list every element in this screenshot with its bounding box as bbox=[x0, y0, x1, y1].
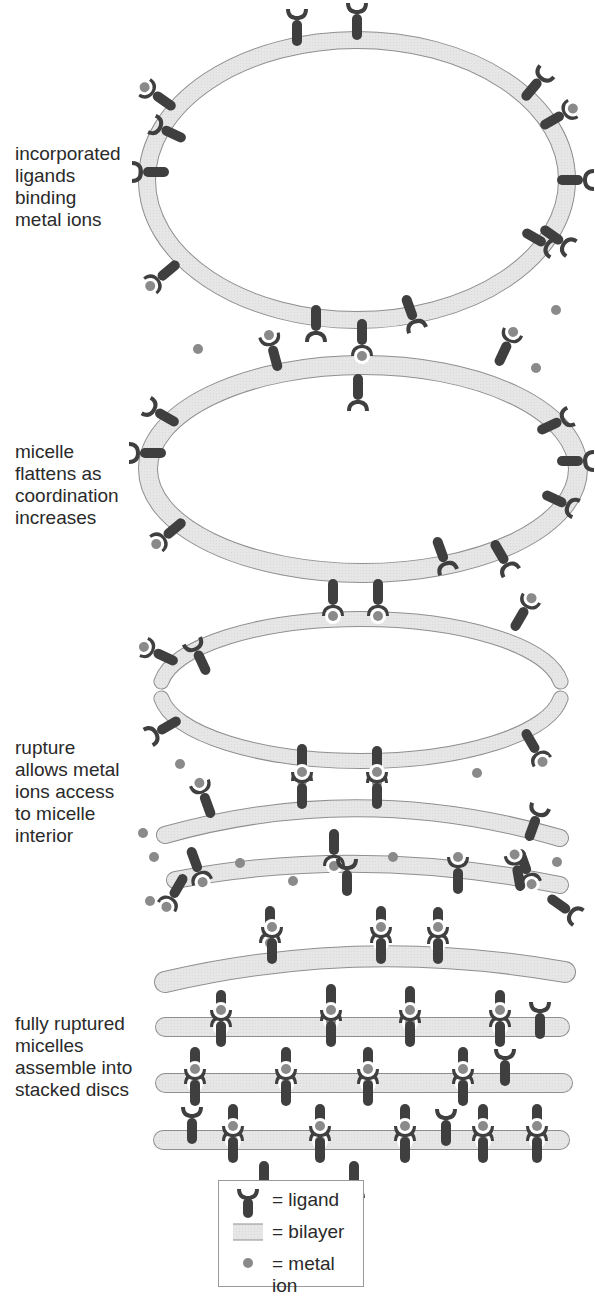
metal-ion bbox=[193, 344, 203, 354]
metal-ion bbox=[400, 1121, 410, 1131]
metal-ion bbox=[453, 852, 463, 862]
metal-ion bbox=[267, 922, 277, 932]
metal-ion bbox=[405, 1005, 415, 1015]
bilayer-layer bbox=[147, 40, 578, 1140]
ligand-bound bbox=[322, 579, 344, 624]
metal-ion-icon bbox=[233, 1251, 263, 1275]
metal-ion bbox=[376, 922, 386, 932]
metal-ion bbox=[281, 1064, 291, 1074]
metal-ion bbox=[235, 858, 245, 868]
legend-item-metal-ion: = metal ion bbox=[219, 1251, 363, 1279]
micelle-1-bilayer bbox=[147, 40, 567, 320]
metal-ion bbox=[388, 852, 398, 862]
legend-metal-ion-label: = metal ion bbox=[272, 1253, 363, 1297]
metal-ion bbox=[326, 1005, 336, 1015]
metal-ion bbox=[532, 1121, 542, 1131]
ligand bbox=[542, 888, 585, 927]
legend: = ligand = bilayer = metal ion bbox=[218, 1180, 364, 1287]
metal-ion bbox=[288, 876, 298, 886]
metal-ion bbox=[373, 611, 383, 621]
micelle-2-bilayer bbox=[148, 365, 578, 573]
legend-ligand-label: = ligand bbox=[272, 1189, 339, 1211]
legend-bilayer-label: = bilayer bbox=[272, 1221, 344, 1243]
metal-ion bbox=[363, 1064, 373, 1074]
bilayer-icon bbox=[233, 1222, 263, 1242]
metal-ion bbox=[149, 852, 159, 862]
metal-ion bbox=[495, 1005, 505, 1015]
ligand bbox=[347, 374, 369, 411]
micelle-3-bilayer bbox=[161, 619, 560, 761]
stage-3-label: rupture allows metal ions access to mice… bbox=[15, 737, 120, 847]
disc-1-bilayer bbox=[165, 956, 565, 982]
metal-ion bbox=[552, 857, 562, 867]
legend-item-bilayer: = bilayer bbox=[219, 1219, 363, 1247]
metal-ion bbox=[551, 305, 561, 315]
metal-ion bbox=[190, 1064, 200, 1074]
ligand-bound bbox=[367, 579, 389, 624]
metal-ion bbox=[297, 767, 307, 777]
ligand-icon bbox=[233, 1185, 263, 1219]
ligand-bound bbox=[487, 320, 526, 370]
stage-4-label: fully ruptured micelles assemble into st… bbox=[15, 1013, 132, 1101]
metal-ion bbox=[138, 828, 148, 838]
metal-ion bbox=[228, 1121, 238, 1131]
metal-ion bbox=[175, 759, 185, 769]
stage-1-label: incorporated ligands binding metal ions bbox=[15, 143, 121, 231]
micelle-4-top-bilayer bbox=[165, 808, 560, 838]
metal-ion bbox=[216, 1005, 226, 1015]
metal-ion bbox=[472, 768, 482, 778]
metal-ion bbox=[458, 1064, 468, 1074]
metal-ion bbox=[315, 1121, 325, 1131]
metal-ion bbox=[328, 611, 338, 621]
metal-ion bbox=[478, 1121, 488, 1131]
metal-ion bbox=[531, 363, 541, 373]
metal-ion bbox=[357, 351, 367, 361]
metal-ion bbox=[372, 767, 382, 777]
stage-2-label: micelle flattens as coordination increas… bbox=[15, 441, 119, 529]
metal-ion bbox=[433, 922, 443, 932]
legend-item-ligand: = ligand bbox=[219, 1187, 363, 1215]
metal-ion bbox=[145, 896, 155, 906]
micelle-4-bottom-bilayer bbox=[175, 864, 560, 885]
ligand-bound bbox=[503, 586, 545, 636]
